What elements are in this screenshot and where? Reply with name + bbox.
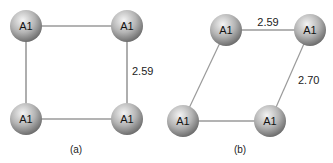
diagram: A1 A1 A1 A1 2.59 (a) A1 A1 A1 A1 2.59 2.… <box>0 0 333 163</box>
panel-b: A1 A1 A1 A1 2.59 2.70 (b) <box>167 14 326 155</box>
atom-label: A1 <box>263 115 276 127</box>
atom-label: A1 <box>219 24 232 36</box>
atom-label: A1 <box>120 20 133 32</box>
atom-label: A1 <box>303 24 316 36</box>
bond-length-label: 2.59 <box>132 65 153 77</box>
atom-label: A1 <box>19 113 32 125</box>
panel-caption: (b) <box>234 144 246 155</box>
bond-length-label-side: 2.70 <box>298 74 319 86</box>
bond-length-label-top: 2.59 <box>257 16 278 28</box>
atom-label: A1 <box>120 113 133 125</box>
panel-caption: (a) <box>70 144 82 155</box>
atom-label: A1 <box>176 115 189 127</box>
panel-a: A1 A1 A1 A1 2.59 (a) <box>10 10 153 155</box>
atom-label: A1 <box>19 20 32 32</box>
